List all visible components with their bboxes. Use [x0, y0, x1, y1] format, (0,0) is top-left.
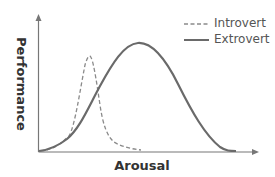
- extrovert-curve: [39, 43, 236, 151]
- legend-extrovert-label: Extrovert: [214, 32, 270, 46]
- x-axis-label: Arousal: [114, 158, 170, 173]
- legend-introvert-label: Introvert: [214, 16, 266, 30]
- y-axis-arrow-icon: [36, 14, 42, 21]
- y-axis-label: Performance: [14, 37, 29, 131]
- x-axis-arrow-icon: [252, 149, 259, 155]
